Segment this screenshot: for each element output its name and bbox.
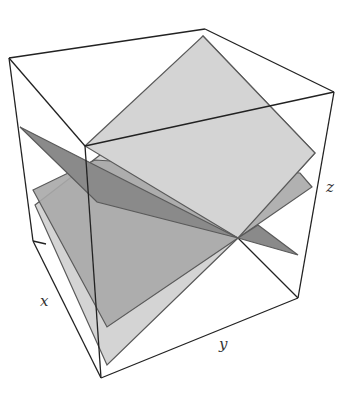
x-axis-label: x — [40, 292, 48, 310]
y-axis-label: y — [219, 335, 227, 353]
3d-plot — [0, 0, 356, 397]
z-axis-label: z — [326, 178, 334, 196]
